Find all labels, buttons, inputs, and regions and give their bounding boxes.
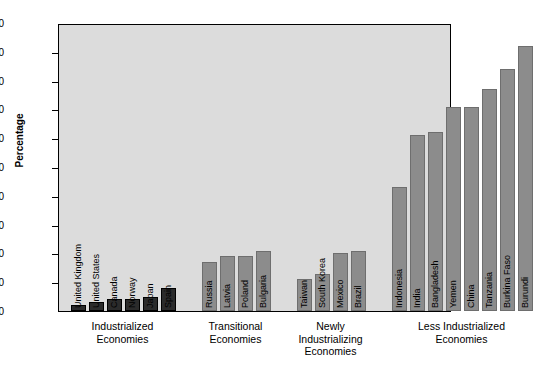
bar-label: Brazil bbox=[354, 285, 363, 308]
y-axis-title: Percentage bbox=[14, 96, 25, 186]
bar bbox=[518, 46, 533, 311]
y-tick-label: 60 bbox=[0, 134, 4, 144]
y-tick-label: 70 bbox=[0, 105, 4, 115]
y-tick-label: 20 bbox=[0, 249, 4, 259]
bar-label: Latvia bbox=[223, 284, 232, 308]
y-tick-label: 90 bbox=[0, 48, 4, 58]
bar-label: Mexico bbox=[336, 279, 345, 308]
bar-group: TaiwanSouth KoreaMexicoBrazil bbox=[297, 25, 366, 311]
y-tick-label: 0 bbox=[0, 307, 4, 317]
bar-label: Burundi bbox=[521, 277, 530, 308]
group-caption-line: Less Industrialized bbox=[392, 320, 532, 333]
bar-label: Taiwan bbox=[300, 280, 309, 308]
y-tick-label: 80 bbox=[0, 77, 4, 87]
bar-label: Bulgaria bbox=[259, 275, 268, 308]
bar-label: United States bbox=[92, 254, 101, 308]
y-tick-label: 10 bbox=[0, 278, 4, 288]
bar-label: Yemen bbox=[449, 280, 458, 308]
bar-label: China bbox=[467, 284, 476, 308]
bar-label: Russia bbox=[205, 280, 214, 308]
group-caption: NewlyIndustrializingEconomies bbox=[261, 320, 401, 358]
group-caption: Less IndustrializedEconomies bbox=[392, 320, 532, 345]
bar bbox=[464, 107, 479, 311]
bar-label: Norway bbox=[128, 277, 137, 308]
bar-label: Canada bbox=[110, 276, 119, 308]
bar-label: Tanzania bbox=[485, 272, 494, 308]
bar bbox=[410, 135, 425, 311]
bar-label: United Kingdom bbox=[74, 244, 83, 308]
bar-group: IndonesiaIndiaBangladeshYemenChinaTanzan… bbox=[392, 25, 533, 311]
bar-label: South Korea bbox=[318, 258, 327, 308]
group-caption-line: Economies bbox=[392, 333, 532, 346]
bar-label: Bangladesh bbox=[431, 260, 440, 308]
group-caption-line: Industrializing bbox=[261, 333, 401, 346]
group-caption-line: Newly bbox=[261, 320, 401, 333]
bar-label: Spain bbox=[164, 285, 173, 308]
y-tick-label: 100 bbox=[0, 19, 4, 29]
y-tick-label: 40 bbox=[0, 192, 4, 202]
bar-label: Poland bbox=[241, 280, 250, 308]
bar-label: Indonesia bbox=[395, 269, 404, 308]
bar-group: United KingdomUnited StatesCanadaNorwayJ… bbox=[71, 25, 176, 311]
bar-label: Japan bbox=[146, 283, 155, 308]
group-caption-line: Economies bbox=[261, 345, 401, 358]
plot-area: United KingdomUnited StatesCanadaNorwayJ… bbox=[58, 24, 451, 312]
bar-label: India bbox=[413, 288, 422, 308]
bar-group: RussiaLatviaPolandBulgaria bbox=[202, 25, 271, 311]
y-tick-label: 30 bbox=[0, 221, 4, 231]
y-tick-label: 50 bbox=[0, 163, 4, 173]
bar-label: Burkina Faso bbox=[503, 255, 512, 308]
